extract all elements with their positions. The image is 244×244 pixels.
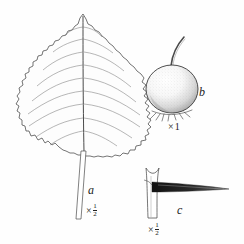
figure-a-scale-denominator: 2 — [93, 211, 98, 218]
figure-b-scale-value: 1 — [175, 122, 180, 132]
figure-a-label: a — [88, 184, 94, 196]
figure-a-scale-fraction: 12 — [93, 203, 98, 218]
figure-a-leaf — [16, 14, 151, 219]
figure-c-label: c — [177, 204, 182, 216]
figure-c-thorn — [144, 168, 229, 218]
figure-c-scale: ×12 — [148, 222, 159, 237]
figure-b-fruit — [146, 37, 198, 121]
figure-c-scale-prefix: × — [148, 225, 154, 235]
fruit-stalk — [171, 37, 184, 66]
plate-artwork — [0, 0, 244, 244]
botanical-plate: a ×12 b × 1 c ×12 — [0, 0, 244, 244]
figure-b-label: b — [199, 86, 205, 98]
figure-a-scale: ×12 — [86, 203, 97, 218]
figure-a-scale-prefix: × — [86, 206, 92, 216]
fruit-stipple-overlay — [147, 66, 197, 112]
figure-b-scale-prefix: × — [168, 122, 174, 132]
figure-b-scale: × 1 — [168, 122, 180, 132]
figure-c-scale-denominator: 2 — [155, 230, 160, 237]
thorn-twig — [146, 168, 159, 218]
leaf-petiole — [76, 151, 86, 219]
figure-c-scale-fraction: 12 — [155, 222, 160, 237]
